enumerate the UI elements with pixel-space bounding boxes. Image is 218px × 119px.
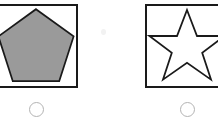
shape-choice-screen xyxy=(0,0,218,119)
star-icon xyxy=(147,6,218,86)
option-star[interactable] xyxy=(145,0,218,119)
stray-speck xyxy=(101,29,106,35)
radio-button-pentagon[interactable] xyxy=(29,102,44,117)
radio-button-star[interactable] xyxy=(180,102,195,117)
pentagon-shape xyxy=(0,9,74,81)
shape-frame-pentagon[interactable] xyxy=(0,4,78,88)
star-shape xyxy=(149,10,218,80)
pentagon-icon xyxy=(0,6,76,86)
shape-frame-star[interactable] xyxy=(145,4,218,88)
radio-wrap-star[interactable] xyxy=(145,99,218,119)
radio-wrap-pentagon[interactable] xyxy=(0,99,78,119)
option-pentagon[interactable] xyxy=(0,0,80,119)
